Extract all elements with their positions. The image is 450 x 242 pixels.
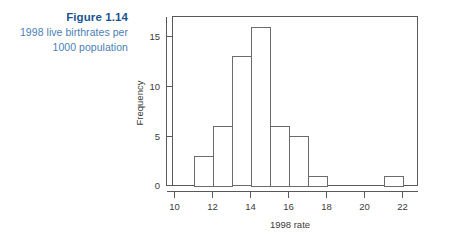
x-axis-tick-labels: 10 12 14 16 18 20 22 <box>169 201 408 212</box>
y-axis-title: Frequency <box>134 80 145 125</box>
y-tick-label-5: 5 <box>155 131 160 142</box>
x-axis-ticks <box>175 192 403 198</box>
x-tick-label-14: 14 <box>245 201 256 212</box>
x-tick-label-20: 20 <box>359 201 370 212</box>
x-tick-label-10: 10 <box>169 201 180 212</box>
x-tick-label-18: 18 <box>321 201 332 212</box>
histogram-bars <box>195 28 404 187</box>
histogram-bar <box>195 157 214 187</box>
x-tick-label-12: 12 <box>207 201 218 212</box>
y-tick-label-10: 10 <box>149 81 160 92</box>
histogram-chart: 0 5 10 15 Frequency 10 12 14 16 18 20 22 <box>0 0 450 242</box>
histogram-bar <box>385 177 404 187</box>
y-axis-tick-labels: 0 5 10 15 <box>149 31 160 191</box>
x-tick-label-16: 16 <box>283 201 294 212</box>
histogram-svg: 0 5 10 15 Frequency 10 12 14 16 18 20 22 <box>0 0 450 242</box>
x-axis-title: 1998 rate <box>270 219 310 230</box>
x-tick-label-22: 22 <box>397 201 408 212</box>
histogram-bar <box>309 177 328 187</box>
y-tick-label-15: 15 <box>149 31 160 42</box>
y-tick-label-0: 0 <box>155 180 160 191</box>
histogram-bar <box>214 127 233 187</box>
histogram-bar <box>271 127 290 187</box>
histogram-bar <box>290 137 309 187</box>
histogram-bar <box>252 28 271 187</box>
y-axis-ticks <box>167 37 173 186</box>
histogram-bar <box>233 57 252 186</box>
